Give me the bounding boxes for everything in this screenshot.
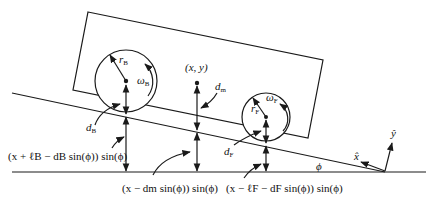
- rear-height-leader: [112, 137, 124, 148]
- rear-height-expression: (x + ℓB − dB sin(ϕ)) sin(ϕ): [8, 150, 127, 163]
- vehicle-slope-diagram: rB ωB rF ωF (x, y) dm dB dF ϕ x̂ ŷ (x + …: [0, 0, 435, 206]
- dB-label: dB: [86, 121, 97, 135]
- dm-leader: [201, 93, 217, 108]
- x-hat-label: x̂: [353, 150, 359, 162]
- y-hat-label: ŷ: [390, 127, 396, 139]
- center-height-expression: (x − dm sin(ϕ)) sin(ϕ): [122, 182, 218, 195]
- dm-label: dm: [215, 80, 227, 94]
- com-label: (x, y): [185, 61, 208, 74]
- y-hat-axis-arrow: [385, 143, 392, 171]
- front-omega-label: ωF: [266, 91, 278, 105]
- phi-label: ϕ: [316, 160, 322, 172]
- com-point: [195, 81, 199, 85]
- front-height-expression: (x − ℓF − dF sin(ϕ)) sin(ϕ): [226, 182, 343, 195]
- front-height-leader: [244, 164, 261, 178]
- dF-label: dF: [224, 145, 234, 159]
